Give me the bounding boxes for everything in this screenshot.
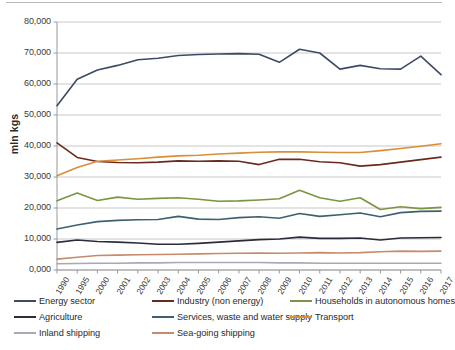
legend-label: Agriculture xyxy=(39,312,82,322)
series-line-energy-sector xyxy=(57,49,441,105)
legend-color-swatch xyxy=(290,316,312,318)
series-line-households-in-autonomous-homes xyxy=(57,190,441,209)
legend-label: Transport xyxy=(315,312,354,322)
legend-item[interactable]: Sea-going shipping xyxy=(152,328,255,338)
legend-label: Inland shipping xyxy=(39,328,100,338)
legend-label: Sea-going shipping xyxy=(177,328,255,338)
chart-legend: Energy sectorIndustry (non energy)Househ… xyxy=(0,296,448,348)
legend-item[interactable]: Energy sector xyxy=(14,296,95,306)
series-line-inland-shipping xyxy=(57,263,441,264)
legend-color-swatch xyxy=(152,316,174,318)
legend-item[interactable]: Services, waste and water supply xyxy=(152,312,312,322)
legend-color-swatch xyxy=(14,332,36,334)
legend-label: Households in autonomous homes xyxy=(315,296,455,306)
legend-label: Energy sector xyxy=(39,296,95,306)
series-line-sea-going-shipping xyxy=(57,251,441,259)
legend-item[interactable]: Inland shipping xyxy=(14,328,100,338)
legend-label: Industry (non energy) xyxy=(177,296,263,306)
legend-color-swatch xyxy=(14,316,36,318)
legend-color-swatch xyxy=(14,300,36,302)
legend-color-swatch xyxy=(152,300,174,302)
legend-item[interactable]: Transport xyxy=(290,312,354,322)
series-line-services-waste-and-water-supply xyxy=(57,211,441,229)
legend-item[interactable]: Industry (non energy) xyxy=(152,296,263,306)
legend-item[interactable]: Agriculture xyxy=(14,312,82,322)
legend-color-swatch xyxy=(290,300,312,302)
legend-item[interactable]: Households in autonomous homes xyxy=(290,296,455,306)
series-line-agriculture xyxy=(57,237,441,244)
series-line-transport xyxy=(57,144,441,176)
legend-color-swatch xyxy=(152,332,174,334)
